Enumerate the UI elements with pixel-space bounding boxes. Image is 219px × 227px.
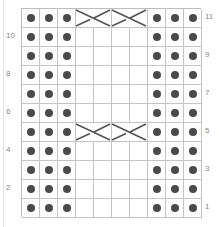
- purl-dot-icon: [63, 147, 71, 155]
- purl-dot-icon: [189, 14, 197, 22]
- purl-stitch-cell: [184, 85, 202, 104]
- purl-stitch-cell: [184, 28, 202, 47]
- knit-stitch-cell: [112, 161, 130, 180]
- purl-stitch-cell: [166, 199, 184, 218]
- purl-stitch-cell: [22, 9, 40, 28]
- knit-stitch-cell: [76, 199, 94, 218]
- row-number-label: 2: [6, 183, 10, 193]
- purl-dot-icon: [171, 71, 179, 79]
- knit-stitch-cell: [130, 161, 148, 180]
- purl-stitch-cell: [166, 123, 184, 142]
- purl-dot-icon: [27, 166, 35, 174]
- purl-dot-icon: [189, 90, 197, 98]
- cable-stitch-cell: [130, 123, 148, 142]
- purl-dot-icon: [27, 109, 35, 117]
- purl-dot-icon: [189, 204, 197, 212]
- purl-stitch-cell: [148, 142, 166, 161]
- row-number-label: 11: [205, 12, 213, 22]
- purl-dot-icon: [153, 90, 161, 98]
- purl-stitch-cell: [184, 66, 202, 85]
- purl-stitch-cell: [148, 9, 166, 28]
- purl-dot-icon: [153, 204, 161, 212]
- purl-dot-icon: [27, 33, 35, 41]
- purl-dot-icon: [27, 90, 35, 98]
- purl-dot-icon: [171, 33, 179, 41]
- knit-stitch-cell: [130, 142, 148, 161]
- purl-dot-icon: [63, 109, 71, 117]
- knit-stitch-cell: [112, 142, 130, 161]
- purl-dot-icon: [63, 185, 71, 193]
- purl-dot-icon: [153, 33, 161, 41]
- cable-stitch-cell: [112, 123, 130, 142]
- purl-dot-icon: [171, 128, 179, 136]
- knit-stitch-cell: [76, 104, 94, 123]
- purl-stitch-cell: [58, 9, 76, 28]
- purl-dot-icon: [27, 128, 35, 136]
- purl-dot-icon: [189, 147, 197, 155]
- knit-stitch-cell: [76, 161, 94, 180]
- purl-dot-icon: [63, 71, 71, 79]
- purl-stitch-cell: [40, 123, 58, 142]
- purl-stitch-cell: [22, 199, 40, 218]
- knitting-chart: [21, 8, 201, 217]
- purl-stitch-cell: [40, 161, 58, 180]
- purl-dot-icon: [63, 33, 71, 41]
- purl-dot-icon: [63, 166, 71, 174]
- purl-dot-icon: [27, 71, 35, 79]
- purl-dot-icon: [153, 52, 161, 60]
- purl-stitch-cell: [148, 161, 166, 180]
- purl-stitch-cell: [184, 123, 202, 142]
- purl-stitch-cell: [184, 104, 202, 123]
- purl-dot-icon: [153, 109, 161, 117]
- knit-stitch-cell: [76, 47, 94, 66]
- purl-dot-icon: [189, 109, 197, 117]
- knit-stitch-cell: [130, 28, 148, 47]
- purl-stitch-cell: [22, 161, 40, 180]
- knit-stitch-cell: [112, 28, 130, 47]
- purl-dot-icon: [171, 109, 179, 117]
- purl-dot-icon: [63, 204, 71, 212]
- row-number-label: 5: [205, 126, 209, 136]
- knit-stitch-cell: [94, 47, 112, 66]
- row-number-label: 10: [6, 31, 15, 41]
- knit-stitch-cell: [94, 66, 112, 85]
- stitch-grid: [21, 8, 201, 217]
- cable-stitch-cell: [130, 9, 148, 28]
- knit-stitch-cell: [94, 104, 112, 123]
- knit-stitch-cell: [94, 161, 112, 180]
- purl-dot-icon: [153, 71, 161, 79]
- purl-dot-icon: [27, 204, 35, 212]
- cable-stitch-cell: [94, 9, 112, 28]
- purl-stitch-cell: [166, 28, 184, 47]
- purl-stitch-cell: [148, 85, 166, 104]
- row-number-label: 1: [205, 202, 209, 212]
- purl-stitch-cell: [40, 9, 58, 28]
- purl-stitch-cell: [148, 28, 166, 47]
- purl-dot-icon: [153, 166, 161, 174]
- purl-stitch-cell: [40, 142, 58, 161]
- knit-stitch-cell: [94, 85, 112, 104]
- knit-stitch-cell: [94, 142, 112, 161]
- purl-dot-icon: [153, 185, 161, 193]
- purl-dot-icon: [171, 185, 179, 193]
- knit-stitch-cell: [130, 85, 148, 104]
- purl-dot-icon: [45, 71, 53, 79]
- purl-stitch-cell: [58, 161, 76, 180]
- knit-stitch-cell: [76, 180, 94, 199]
- knit-stitch-cell: [112, 66, 130, 85]
- purl-dot-icon: [189, 166, 197, 174]
- purl-dot-icon: [153, 147, 161, 155]
- purl-stitch-cell: [22, 104, 40, 123]
- purl-stitch-cell: [148, 180, 166, 199]
- purl-stitch-cell: [166, 142, 184, 161]
- purl-stitch-cell: [40, 199, 58, 218]
- knit-stitch-cell: [112, 180, 130, 199]
- purl-stitch-cell: [184, 9, 202, 28]
- purl-stitch-cell: [166, 9, 184, 28]
- purl-dot-icon: [171, 90, 179, 98]
- purl-dot-icon: [45, 204, 53, 212]
- purl-dot-icon: [27, 185, 35, 193]
- purl-dot-icon: [45, 128, 53, 136]
- purl-dot-icon: [171, 147, 179, 155]
- purl-dot-icon: [45, 185, 53, 193]
